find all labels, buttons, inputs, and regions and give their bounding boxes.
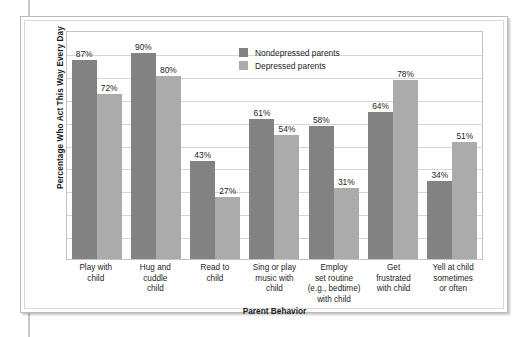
bar[interactable]: 72% [97,94,122,259]
category-label-line: Yell at child [424,263,482,274]
bar[interactable]: 31% [334,188,359,259]
bar[interactable]: 27% [215,197,240,259]
category-label-line: Sing or play [245,263,303,274]
category-label-line: sometimes [424,274,482,285]
category-label-line: frustrated [365,274,423,285]
bar-value-label: 54% [279,124,296,134]
figure-frame: Percentage Who Act This Way Every Day 87… [20,16,508,313]
bar[interactable]: 90% [131,53,156,259]
bar-group: 34%51% [427,32,477,259]
category-label-line: music with [245,274,303,285]
bar-group: 64%78% [368,32,418,259]
bar[interactable]: 78% [393,80,418,259]
category-label-line: cuddle [126,274,184,285]
bar-value-label: 31% [338,177,355,187]
bar[interactable]: 87% [72,60,97,259]
legend-item[interactable]: Nondepressed parents [239,46,340,59]
x-axis-title: Parent Behavior [66,306,483,316]
bar[interactable]: 54% [274,135,299,259]
chart-legend: Nondepressed parentsDepressed parents [239,46,340,72]
category-label-line: Play with [67,263,125,274]
bar[interactable]: 34% [427,181,452,259]
category-label-line: Hug and [126,263,184,274]
category-label-line: child [186,274,244,285]
bar[interactable]: 61% [249,119,274,259]
category-label: Employset routine(e.g., bedtime)with chi… [305,263,363,305]
category-label: Play withchild [67,263,125,305]
category-label-line: Get [365,263,423,274]
legend-swatch-icon [239,61,248,70]
bar-value-label: 58% [313,115,330,125]
bar-value-label: 72% [101,83,118,93]
category-label: Read tochild [186,263,244,305]
bar-group: 43%27% [190,32,240,259]
category-label-line: with child [305,295,363,306]
bar-value-label: 61% [254,108,271,118]
bar-value-label: 34% [431,170,448,180]
category-label-line: with child [365,284,423,295]
legend-item[interactable]: Depressed parents [239,59,340,72]
bar[interactable]: 80% [156,76,181,259]
legend-label: Depressed parents [255,61,326,71]
category-label-line: Employ [305,263,363,274]
category-label-line: Read to [186,263,244,274]
bar-value-label: 51% [456,131,473,141]
legend-label: Nondepressed parents [255,48,340,58]
legend-swatch-icon [239,48,248,57]
bar[interactable]: 43% [190,161,215,259]
category-label-line: set routine [305,274,363,285]
bar-group: 90%80% [131,32,181,259]
bar[interactable]: 58% [309,126,334,259]
category-label-line: child [126,284,184,295]
bar-value-label: 27% [219,186,236,196]
bar[interactable]: 64% [368,112,393,259]
x-axis-category-labels: Play withchildHug andcuddlechildRead toc… [66,263,483,305]
bar-group: 87%72% [72,32,122,259]
category-label-line: or often [424,284,482,295]
category-label-line: child [67,274,125,285]
chart-plot-area: 87%72%90%80%43%27%61%54%58%31%64%78%34%5… [66,31,483,260]
bar-value-label: 87% [76,49,93,59]
category-label: Hug andcuddlechild [126,263,184,305]
category-label: Sing or playmusic withchild [245,263,303,305]
bar[interactable]: 51% [452,142,477,259]
y-axis-title: Percentage Who Act This Way Every Day [56,5,65,211]
bar-value-label: 43% [194,150,211,160]
category-label-line: (e.g., bedtime) [305,284,363,295]
bar-value-label: 80% [160,65,177,75]
bar-value-label: 78% [397,69,414,79]
category-label-line: child [245,284,303,295]
bar-value-label: 64% [372,101,389,111]
category-label: Yell at childsometimesor often [424,263,482,305]
page-rule-bottom-decoration [28,313,30,337]
category-label: Getfrustratedwith child [365,263,423,305]
bar-value-label: 90% [135,42,152,52]
